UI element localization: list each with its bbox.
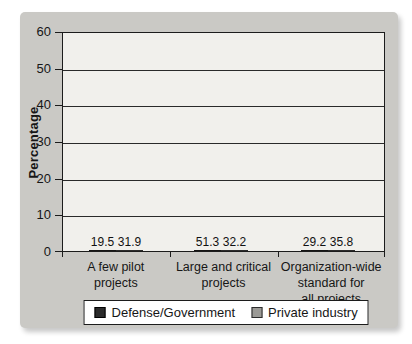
y-tick-label: 0: [25, 244, 51, 260]
y-tick-mark: [55, 105, 62, 106]
legend-item-private-industry: Private industry: [251, 305, 358, 320]
page: Percentage 60 50 40 30 20 10 0: [0, 0, 412, 344]
bar-value-label: 19.5: [91, 235, 114, 249]
bar-value-label: 29.2: [303, 235, 326, 249]
bar-private-industry: 32.2: [221, 250, 248, 251]
y-tick-mark: [55, 179, 62, 180]
bar-value-label: 31.9: [118, 235, 141, 249]
gridline: [63, 143, 384, 144]
y-tick-label: 40: [25, 97, 51, 113]
legend-item-defense-government: Defense/Government: [95, 305, 236, 320]
bar-group-large-critical-projects: 51.3 32.2: [194, 250, 248, 251]
x-tick-mark: [62, 252, 63, 257]
bar-value-label: 51.3: [196, 235, 219, 249]
y-tick-label: 50: [25, 61, 51, 77]
bar-value-label: 35.8: [330, 235, 353, 249]
gridline: [63, 70, 384, 71]
x-tick-mark: [170, 252, 171, 257]
y-tick-mark: [55, 32, 62, 33]
legend-swatch-private-industry-icon: [251, 307, 262, 318]
plot-area: 19.5 31.9 51.3 32.2 29.2 35.8: [62, 32, 385, 252]
legend-swatch-defense-government-icon: [95, 307, 106, 318]
legend-label-defense-government: Defense/Government: [112, 305, 236, 320]
legend: Defense/Government Private industry: [84, 300, 369, 325]
legend-label-private-industry: Private industry: [268, 305, 358, 320]
bar-private-industry: 31.9: [116, 250, 143, 251]
bar-value-label: 32.2: [223, 235, 246, 249]
y-axis: 60 50 40 30 20 10 0: [20, 32, 62, 252]
x-tick-mark: [384, 252, 385, 257]
gridline: [63, 216, 384, 217]
y-tick-label: 20: [25, 171, 51, 187]
gridline: [63, 106, 384, 107]
bar-group-organization-wide: 29.2 35.8: [301, 250, 355, 251]
figure-panel: Percentage 60 50 40 30 20 10 0: [20, 12, 398, 328]
y-tick-label: 30: [25, 134, 51, 150]
y-tick-mark: [55, 215, 62, 216]
x-tick-mark: [278, 252, 279, 257]
bar-private-industry: 35.8: [328, 250, 355, 251]
y-tick-mark: [55, 69, 62, 70]
y-tick-mark: [55, 251, 62, 252]
y-tick-label: 60: [25, 24, 51, 40]
gridline: [63, 180, 384, 181]
y-tick-mark: [55, 142, 62, 143]
y-tick-label: 10: [25, 207, 51, 223]
bar-group-pilot-projects: 19.5 31.9: [89, 250, 143, 251]
bar-defense-government: 29.2: [301, 250, 328, 251]
bar-defense-government: 51.3: [194, 250, 221, 251]
bar-defense-government: 19.5: [89, 250, 116, 251]
